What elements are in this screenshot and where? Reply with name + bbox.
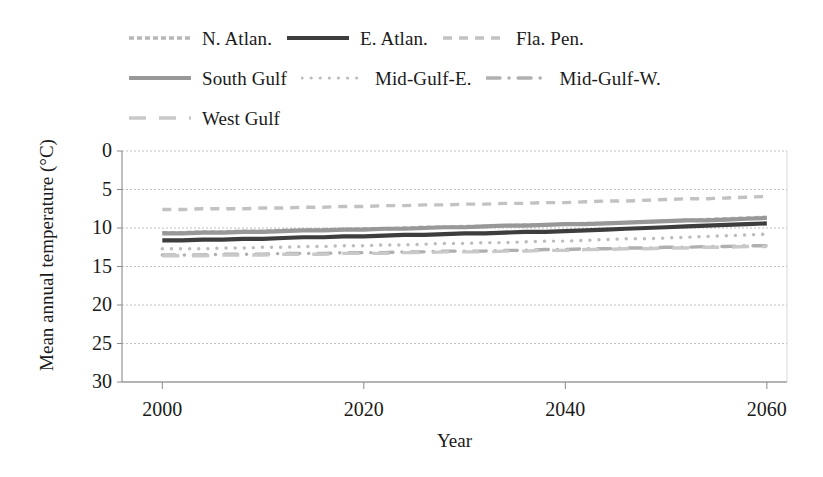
legend-item-west_gulf[interactable]: West Gulf	[128, 109, 288, 128]
legend-item-fla_pen[interactable]: Fla. Pen.	[442, 29, 592, 48]
legend-line-icon	[128, 112, 192, 124]
figure: N. Atlan.E. Atlan.Fla. Pen.South GulfMid…	[0, 0, 823, 477]
legend-label: E. Atlan.	[350, 29, 436, 48]
legend-line-icon	[301, 72, 365, 84]
legend-item-south_gulf[interactable]: South Gulf	[128, 69, 295, 88]
legend-label: Fla. Pen.	[506, 29, 592, 48]
legend-row: N. Atlan.E. Atlan.Fla. Pen.	[128, 18, 768, 58]
legend-row: South GulfMid-Gulf-E.Mid-Gulf-W.	[128, 58, 768, 98]
legend-label: West Gulf	[192, 109, 288, 128]
gridlines	[122, 151, 787, 382]
chart-canvas	[0, 132, 823, 477]
legend-item-mid_gulf_w[interactable]: Mid-Gulf-W.	[486, 69, 669, 88]
legend-line-icon	[486, 72, 550, 84]
series-line-fla_pen	[162, 196, 767, 209]
legend-line-icon	[442, 32, 506, 44]
plot-area: Mean annual temperature (°C) 30252015105…	[0, 132, 823, 477]
legend-label: Mid-Gulf-W.	[550, 69, 669, 88]
legend-label: N. Atlan.	[192, 29, 280, 48]
legend-label: South Gulf	[192, 69, 295, 88]
legend-item-e_atlan[interactable]: E. Atlan.	[286, 29, 436, 48]
legend-line-icon	[128, 72, 192, 84]
legend-item-n_atlan[interactable]: N. Atlan.	[128, 29, 280, 48]
legend-item-mid_gulf_e[interactable]: Mid-Gulf-E.	[301, 69, 480, 88]
axes	[117, 151, 787, 389]
data-series-group	[162, 196, 767, 255]
legend-label: Mid-Gulf-E.	[365, 69, 480, 88]
legend-line-icon	[286, 32, 350, 44]
legend-line-icon	[128, 32, 192, 44]
chart-legend: N. Atlan.E. Atlan.Fla. Pen.South GulfMid…	[128, 18, 768, 138]
